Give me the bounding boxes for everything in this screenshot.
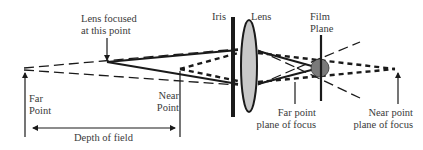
- depth-of-field-label: Depth of field: [74, 132, 133, 144]
- lens-label: Lens: [251, 11, 271, 23]
- far-point-label: Far Point: [29, 93, 51, 116]
- far-point-plane-label: Far point plane of focus: [248, 107, 316, 130]
- lens-focused-label: Lens focused at this point: [81, 13, 137, 36]
- iris: [231, 17, 235, 117]
- iris-label: Iris: [212, 11, 226, 23]
- near-point-rays: [180, 53, 395, 82]
- near-point-plane-label: Near point plane of focus: [345, 107, 413, 130]
- lens: [241, 20, 257, 112]
- film-plane-label: Film Plane: [310, 11, 333, 34]
- near-point-label: Near Point: [153, 90, 179, 113]
- depth-of-field-diagram: Lens focused at this point Iris Lens Fil…: [0, 0, 423, 150]
